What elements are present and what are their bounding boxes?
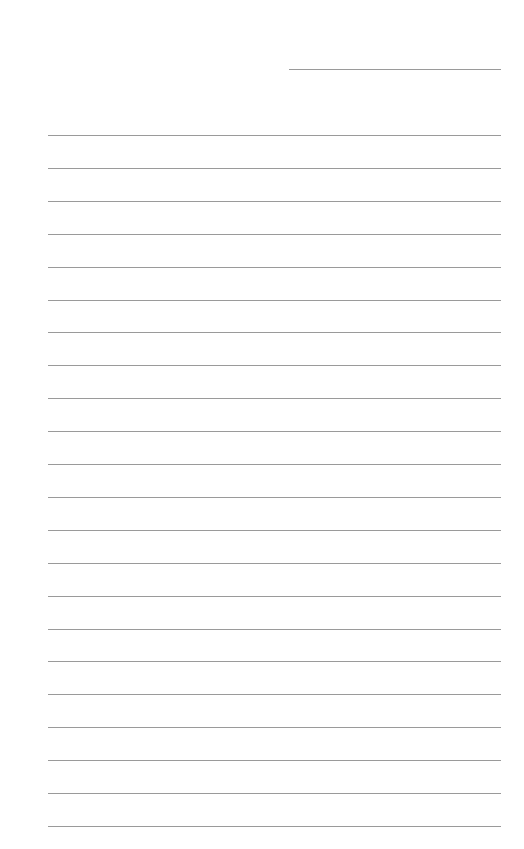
ruled-line bbox=[48, 332, 501, 333]
ruled-line bbox=[48, 168, 501, 169]
ruled-line bbox=[48, 793, 501, 794]
ruled-line bbox=[48, 201, 501, 202]
ruled-line bbox=[48, 661, 501, 662]
ruled-line bbox=[48, 530, 501, 531]
ruled-line bbox=[48, 826, 501, 827]
ruled-line bbox=[48, 760, 501, 761]
ruled-line bbox=[48, 497, 501, 498]
lined-page bbox=[0, 0, 524, 849]
ruled-line bbox=[48, 300, 501, 301]
ruled-line bbox=[48, 629, 501, 630]
ruled-line bbox=[48, 727, 501, 728]
ruled-line bbox=[48, 464, 501, 465]
header-line bbox=[289, 69, 501, 70]
ruled-line bbox=[48, 694, 501, 695]
ruled-line bbox=[48, 135, 501, 136]
ruled-line bbox=[48, 596, 501, 597]
ruled-line bbox=[48, 267, 501, 268]
ruled-line bbox=[48, 365, 501, 366]
ruled-line bbox=[48, 234, 501, 235]
ruled-line bbox=[48, 398, 501, 399]
ruled-line bbox=[48, 431, 501, 432]
ruled-line bbox=[48, 563, 501, 564]
